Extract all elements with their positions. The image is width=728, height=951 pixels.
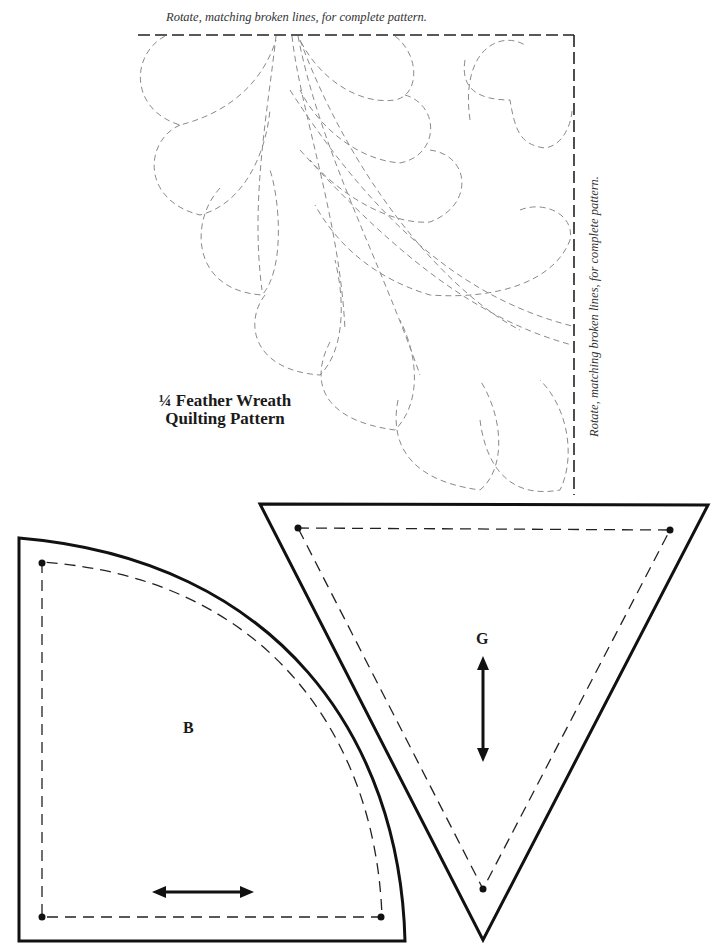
feather-right-1 — [300, 36, 414, 101]
spine-4 — [300, 40, 520, 330]
feather-corner — [464, 60, 572, 148]
feather-left-6 — [396, 380, 499, 490]
pattern-drawing — [0, 0, 728, 951]
feather-right-2 — [300, 90, 431, 163]
rotate-instruction-top: Rotate, matching broken lines, for compl… — [166, 10, 566, 25]
template-b-label: B — [183, 719, 194, 737]
template-b-corner-dot — [378, 914, 385, 921]
spine-6 — [300, 150, 572, 345]
template-g-corner-dot — [480, 886, 487, 893]
pattern-title-line2: Quilting Pattern — [140, 410, 310, 428]
spine-2 — [292, 36, 345, 330]
template-b-corner-dot — [39, 914, 46, 921]
template-b-corner-dot — [39, 560, 46, 567]
pattern-title: ¼ Feather Wreath Quilting Pattern — [140, 392, 310, 428]
pattern-page: Rotate, matching broken lines, for compl… — [0, 0, 728, 951]
template-g-corner-dot — [295, 525, 302, 532]
spine-3 — [298, 36, 420, 375]
feather-left-7 — [480, 380, 568, 492]
spine-1 — [258, 36, 276, 290]
template-g-label: G — [476, 630, 488, 648]
rotate-instruction-side: Rotate, matching broken lines, for compl… — [587, 176, 602, 437]
feather-right-3 — [310, 150, 462, 222]
pattern-title-line1: ¼ Feather Wreath — [140, 392, 310, 410]
feather-corner-top — [468, 40, 525, 120]
feather-left-4 — [255, 260, 341, 375]
feather-left-1 — [140, 36, 276, 125]
template-g-corner-dot — [667, 527, 674, 534]
feather-left-5 — [321, 320, 414, 430]
